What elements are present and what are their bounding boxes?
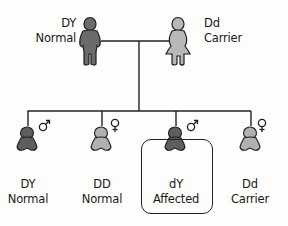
child-phenotype: Normal xyxy=(0,192,63,207)
child-1-label: DY Normal xyxy=(0,177,63,207)
child-4-label: Dd Carrier xyxy=(215,177,285,207)
child-1-figure-icon xyxy=(17,127,37,150)
father-label: DY Normal xyxy=(20,16,76,46)
child-genotype: Dd xyxy=(215,177,285,192)
child-2-label: DD Normal xyxy=(67,177,137,207)
child-4-figure-icon xyxy=(240,127,260,150)
mother-phenotype: Carrier xyxy=(204,31,242,46)
child-3-label: dY Affected xyxy=(141,177,211,207)
child-phenotype: Carrier xyxy=(215,192,285,207)
male-symbol-icon xyxy=(187,121,197,131)
male-symbol-icon xyxy=(39,121,49,131)
female-symbol-icon xyxy=(258,119,265,132)
father-genotype: DY xyxy=(20,16,76,31)
mother-label: Dd Carrier xyxy=(204,16,242,46)
child-genotype: DY xyxy=(0,177,63,192)
child-phenotype: Affected xyxy=(141,192,211,207)
mother-genotype: Dd xyxy=(204,16,242,31)
child-2-figure-icon xyxy=(91,127,111,150)
child-phenotype: Normal xyxy=(67,192,137,207)
father-phenotype: Normal xyxy=(20,31,76,46)
father-figure-icon xyxy=(80,18,100,66)
mother-figure-icon xyxy=(166,18,190,66)
female-symbol-icon xyxy=(111,119,118,132)
child-genotype: dY xyxy=(141,177,211,192)
child-genotype: DD xyxy=(67,177,137,192)
